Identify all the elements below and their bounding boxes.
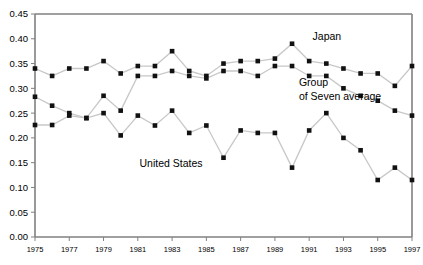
- data-point-marker: [238, 59, 243, 64]
- data-point-marker: [238, 69, 243, 74]
- y-axis-tick-label: 0.05: [10, 207, 29, 218]
- data-point-marker: [153, 64, 158, 69]
- data-point-marker: [187, 69, 192, 74]
- data-point-marker: [84, 66, 89, 71]
- data-point-marker: [410, 113, 415, 118]
- data-point-marker: [273, 56, 278, 61]
- data-point-marker: [136, 74, 141, 79]
- data-point-marker: [255, 131, 260, 136]
- data-point-marker: [33, 66, 38, 71]
- data-point-marker: [204, 76, 209, 81]
- data-point-marker: [136, 113, 141, 118]
- data-point-marker: [358, 71, 363, 76]
- chart-container: 0.450.400.350.300.250.200.150.100.050.00…: [0, 0, 423, 265]
- x-axis-tick-label: 1993: [335, 245, 352, 254]
- x-axis-tick-label: 1987: [232, 245, 249, 254]
- data-point-marker: [358, 148, 363, 153]
- data-point-marker: [273, 131, 278, 136]
- data-point-marker: [50, 123, 55, 128]
- x-axis-tick-label: 1975: [27, 245, 44, 254]
- data-point-marker: [341, 136, 346, 141]
- data-point-marker: [170, 69, 175, 74]
- data-point-marker: [255, 74, 260, 79]
- data-point-marker: [221, 61, 226, 66]
- series-line-path: [35, 111, 412, 180]
- data-point-marker: [101, 93, 106, 98]
- y-axis-tick-label: 0.25: [10, 108, 29, 119]
- x-axis-tick-label: 1977: [61, 245, 78, 254]
- data-point-marker: [393, 108, 398, 113]
- data-point-marker: [170, 108, 175, 113]
- data-point-marker: [118, 108, 123, 113]
- data-point-marker: [375, 71, 380, 76]
- data-point-marker: [50, 74, 55, 79]
- data-point-marker: [204, 123, 209, 128]
- data-point-marker: [67, 66, 72, 71]
- x-axis-tick-label: 1981: [129, 245, 146, 254]
- data-point-marker: [153, 123, 158, 128]
- y-axis-tick-label: 0.35: [10, 58, 29, 69]
- data-point-marker: [393, 165, 398, 170]
- x-axis-tick-label: 1983: [164, 245, 181, 254]
- x-axis-tick-label: 1985: [198, 245, 215, 254]
- data-point-marker: [410, 178, 415, 183]
- series-annotation-label: of Seven average: [299, 90, 381, 102]
- data-point-marker: [375, 178, 380, 183]
- data-point-marker: [187, 74, 192, 79]
- data-point-marker: [118, 71, 123, 76]
- series-annotation-label: Japan: [313, 30, 342, 42]
- data-point-marker: [33, 94, 38, 99]
- data-point-marker: [101, 111, 106, 116]
- data-point-marker: [290, 41, 295, 46]
- x-axis-tick-label: 1995: [369, 245, 386, 254]
- x-axis-tick-label: 1997: [404, 245, 421, 254]
- x-axis-tick-label: 1989: [267, 245, 284, 254]
- line-chart: 0.450.400.350.300.250.200.150.100.050.00…: [0, 0, 423, 265]
- data-point-marker: [255, 59, 260, 64]
- data-point-marker: [101, 59, 106, 64]
- data-point-marker: [324, 111, 329, 116]
- data-point-marker: [393, 84, 398, 89]
- x-axis-tick-label: 1979: [95, 245, 112, 254]
- data-point-marker: [341, 66, 346, 71]
- data-point-marker: [290, 165, 295, 170]
- y-axis-tick-label: 0.15: [10, 157, 29, 168]
- data-point-marker: [187, 131, 192, 136]
- data-point-marker: [307, 59, 312, 64]
- data-point-marker: [153, 74, 158, 79]
- data-point-marker: [118, 133, 123, 138]
- data-point-marker: [136, 64, 141, 69]
- data-point-marker: [170, 49, 175, 54]
- y-axis-tick-label: 0.30: [10, 83, 29, 94]
- series-japan: [33, 41, 415, 88]
- series-annotation-label: United States: [140, 157, 203, 169]
- data-point-marker: [410, 64, 415, 69]
- series-united-states: [33, 108, 415, 182]
- y-axis-tick-label: 0.40: [10, 33, 29, 44]
- x-axis-tick-label: 1991: [301, 245, 318, 254]
- y-axis-tick-label: 0.00: [10, 231, 29, 242]
- data-point-marker: [238, 128, 243, 133]
- y-axis-tick-label: 0.10: [10, 182, 29, 193]
- y-axis-tick-label: 0.45: [10, 8, 29, 19]
- data-point-marker: [221, 69, 226, 74]
- y-axis-tick-label: 0.20: [10, 132, 29, 143]
- data-point-marker: [290, 64, 295, 69]
- data-point-marker: [221, 155, 226, 160]
- data-point-marker: [67, 113, 72, 118]
- data-point-marker: [33, 123, 38, 128]
- data-point-marker: [324, 61, 329, 66]
- series-annotation-label: Group: [299, 76, 328, 88]
- data-point-marker: [307, 128, 312, 133]
- data-point-marker: [84, 116, 89, 121]
- data-point-marker: [50, 103, 55, 108]
- data-point-marker: [273, 64, 278, 69]
